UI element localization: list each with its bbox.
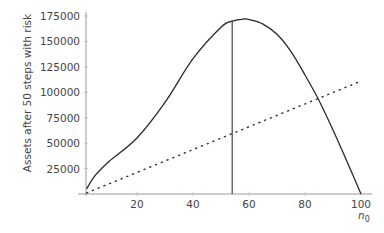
x-tick-label: 60: [242, 198, 255, 210]
chart: 250005000075000100000125000150000175000 …: [0, 0, 384, 233]
x-axis-label: n0: [358, 209, 370, 224]
y-tick-label: 25000: [47, 163, 80, 175]
y-tick-label: 150000: [40, 35, 80, 47]
y-tick-label: 175000: [40, 10, 80, 22]
x-axis: 20406080100: [78, 192, 372, 210]
y-tick-label: 50000: [47, 137, 80, 149]
assets-curve: [87, 19, 361, 194]
y-axis-label: Assets after 50 steps with risk: [21, 13, 33, 172]
plot-area: [87, 19, 361, 194]
dotted-reference-line: [87, 81, 361, 193]
x-tick-label: 80: [298, 198, 311, 210]
y-tick-label: 125000: [40, 61, 80, 73]
x-tick-label: 20: [130, 198, 143, 210]
x-tick-label: 40: [186, 198, 199, 210]
y-tick-label: 100000: [40, 86, 80, 98]
y-tick-label: 75000: [47, 112, 80, 124]
y-axis: 250005000075000100000125000150000175000: [40, 10, 88, 196]
